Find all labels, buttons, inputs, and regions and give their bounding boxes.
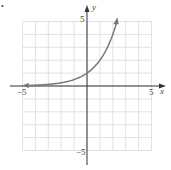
y-axis-label: y [92,3,96,12]
exponential-curve [26,23,116,86]
y-axis-arrow-icon [85,5,90,12]
y-tick-max: 5 [80,15,85,24]
x-tick-max: 5 [149,88,154,97]
y-tick-min: −5 [76,148,86,157]
x-tick-min: −5 [17,88,27,97]
curve-right-arrow-icon [113,17,119,24]
chart-plot [0,0,171,170]
x-axis-label: x [160,87,164,96]
